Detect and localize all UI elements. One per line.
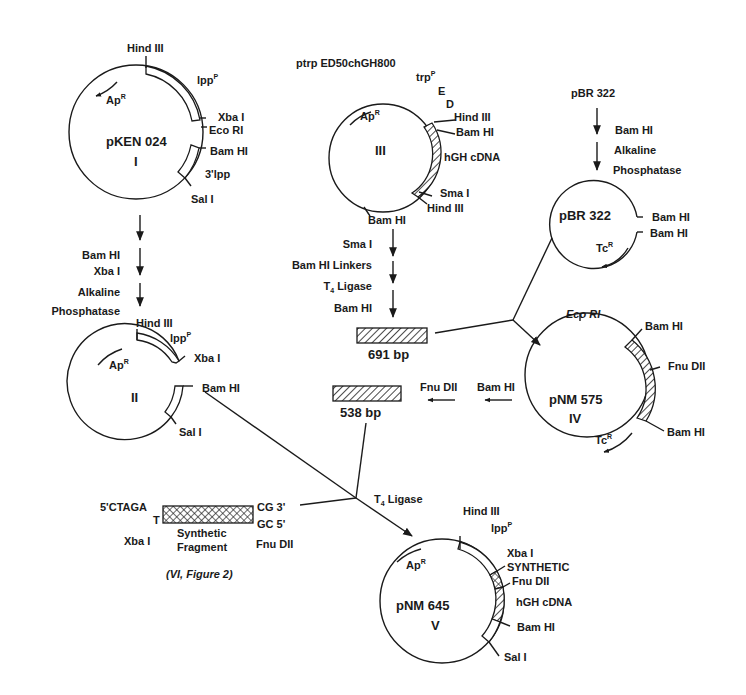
step-label: Bam HI: [334, 302, 372, 314]
label-bamh1: Bam HI: [210, 145, 248, 157]
label-xba1: Xba I: [218, 111, 244, 123]
figure-caption: (VI, Figure 2): [166, 568, 233, 580]
label-bamh1-b: Bam HI: [667, 426, 705, 438]
plasmid-pken024: Hind III lppP Xba I Eco RI Bam HI 3'lpp …: [69, 42, 248, 205]
label-bamh1: Bam HI: [517, 621, 555, 633]
plasmid-name: pKEN 024: [106, 134, 167, 149]
label-e: E: [438, 85, 445, 97]
label-lpp: lppP: [491, 521, 513, 534]
label-xba1: Xba I: [124, 535, 150, 547]
plasmid-ptrp-ed50chgh800: ptrp ED50chGH800 trpP E D Hind III Bam H…: [296, 57, 500, 226]
label-lpp: lppP: [170, 331, 192, 344]
label-synthetic: SYNTHETIC: [507, 561, 569, 573]
label-d: D: [446, 98, 454, 110]
plasmid-numeral: III: [375, 143, 386, 158]
step-label: Bam HI Linkers: [292, 259, 372, 271]
plasmid-name: pNM 575: [549, 392, 602, 407]
fragment-name-line2: Fragment: [177, 541, 227, 553]
label-sal1: Sal I: [504, 651, 527, 663]
fragment-538bp: 538 bp: [333, 386, 401, 420]
plasmid-numeral: IV: [569, 411, 582, 426]
fragment-name-line1: Synthetic: [177, 527, 227, 539]
plasmid-name: pBR 322: [559, 208, 611, 223]
label-sma1: Sma I: [440, 187, 469, 199]
label-tc-resistance: TcR: [595, 433, 612, 446]
plasmid-numeral: V: [431, 618, 440, 633]
plasmid-numeral: II: [131, 390, 138, 405]
label-ap-resistance: ApR: [106, 93, 126, 106]
label-lpp: lppP: [197, 73, 219, 86]
step-label: Fnu DII: [420, 381, 457, 393]
step-label: Alkaline: [78, 286, 120, 298]
label-bamh1: Bam HI: [645, 320, 683, 332]
steps-i-to-ii: Bam HI Xba I Alkaline Phosphatase: [52, 215, 140, 317]
label-sal1: Sal I: [179, 426, 202, 438]
label-fnu-dii: Fnu DII: [256, 538, 293, 550]
fragment-691bp: 691 bp: [357, 328, 427, 362]
ligation-lines-to-iv: [435, 238, 552, 345]
synthetic-fragment: 5'CTAGA T CG 3' GC 5' Xba I Synthetic Fr…: [100, 501, 293, 580]
label-hind3: Hind III: [454, 111, 491, 123]
step-label: T4 Ligase: [374, 493, 423, 507]
step-label: Xba I: [94, 265, 120, 277]
fragment-label: 538 bp: [340, 405, 381, 420]
plasmid-title: ptrp ED50chGH800: [296, 57, 396, 69]
step-label: Phosphatase: [613, 164, 681, 176]
label-bamh1: Bam HI: [202, 382, 240, 394]
label-ecor1: Eco RI: [566, 308, 601, 320]
label-hind3-b: Hind III: [427, 202, 464, 214]
label-bamh1-b: Bam HI: [650, 227, 688, 239]
steps-iv-to-538bp: Fnu DII Bam HI: [420, 381, 515, 400]
step-label: Sma I: [343, 238, 372, 250]
label-hgh-cdna: hGH cDNA: [444, 151, 500, 163]
label-tc-resistance: TcR: [596, 241, 613, 254]
seq-left-top: 5'CTAGA: [100, 501, 147, 513]
step-label: T4 Ligase: [323, 280, 372, 294]
seq-right-bottom: GC 5': [257, 518, 286, 530]
plasmid-ii: Hind III lppP Xba I Bam HI Sal I ApR II: [67, 317, 240, 440]
label-ap-resistance: ApR: [360, 109, 380, 122]
seq-right-top: CG 3': [257, 501, 286, 513]
step-label: Phosphatase: [52, 305, 120, 317]
label-bamh1-b: Bam HI: [368, 214, 406, 226]
plasmid-name: pNM 645: [396, 598, 449, 613]
label-sal1: Sal I: [191, 193, 214, 205]
step-label: Alkaline: [614, 144, 656, 156]
label-fnu-dii: Fnu DII: [512, 575, 549, 587]
label-xba1: Xba I: [507, 547, 533, 559]
seq-left-bottom: T: [153, 514, 160, 526]
plasmid-construction-diagram: Hind III lppP Xba I Eco RI Bam HI 3'lpp …: [0, 0, 746, 695]
plasmid-pnm645: Hind III lppP Xba I SYNTHETIC Fnu DII hG…: [380, 505, 572, 663]
plasmid-pnm575: Eco RI Bam HI Fnu DII Bam HI pNM 575 IV …: [525, 308, 705, 452]
label-bamh1: Bam HI: [456, 126, 494, 138]
label-hgh-cdna: hGH cDNA: [516, 596, 572, 608]
step-label: Bam HI: [615, 124, 653, 136]
fragment-label: 691 bp: [368, 347, 409, 362]
label-3lpp: 3'lpp: [205, 168, 231, 180]
label-hind3: Hind III: [463, 505, 500, 517]
steps-iii-to-691bp: Sma I Bam HI Linkers T4 Ligase Bam HI: [292, 229, 393, 317]
label-xba1: Xba I: [194, 352, 220, 364]
label-ap-resistance: ApR: [109, 358, 129, 371]
step-label: Bam HI: [82, 249, 120, 261]
label-ap-resistance: ApR: [406, 558, 426, 571]
label-trp: trpP: [416, 70, 436, 83]
label-bamh1: Bam HI: [652, 211, 690, 223]
plasmid-title: pBR 322: [571, 87, 615, 99]
label-hind3: Hind III: [127, 42, 164, 54]
label-ecor1: Eco RI: [209, 124, 243, 136]
label-fnu-dii: Fnu DII: [668, 360, 705, 372]
plasmid-numeral: I: [134, 154, 138, 169]
plasmid-pbr322: pBR 322 Bam HI Alkaline Phosphatase Bam …: [550, 87, 690, 268]
step-label: Bam HI: [477, 381, 515, 393]
label-hind3: Hind III: [136, 317, 173, 329]
